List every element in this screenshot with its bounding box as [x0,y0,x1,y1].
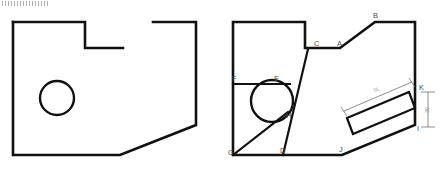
slot-length-dimension-label: SL [372,85,380,93]
vertex-label-a: A [337,39,342,48]
vertex-label-b: B [373,11,378,20]
left-view-group [13,22,196,155]
technical-drawing-svg: SL 30 A B C D E F G H I J K [0,0,441,169]
right-view-group [233,22,415,155]
drawing-canvas: SL 30 A B C D E F G H I J K [0,0,441,169]
vertex-label-j: J [339,145,343,154]
slot-length-tick-start [341,107,347,116]
edge-height-dimension-label: 30 [424,107,430,113]
vertex-label-h: H [286,111,291,120]
left-view-hole-circle [40,81,74,115]
vertex-label-c: C [314,39,320,48]
vertex-label-g: G [228,148,234,157]
vertex-label-d: D [280,146,286,155]
right-view-rotated-slot [347,92,415,134]
vertex-label-e: E [274,74,279,83]
right-view-line-c-d [283,49,308,155]
vertex-label-i: I [417,124,419,133]
vertex-label-k: K [419,83,424,92]
vertex-label-f: F [232,74,237,83]
left-view-notch-edge [13,22,123,48]
left-view-body-outline [13,22,196,155]
